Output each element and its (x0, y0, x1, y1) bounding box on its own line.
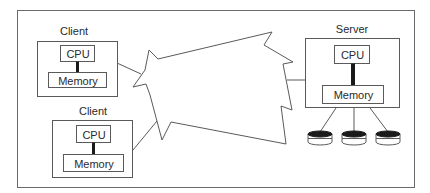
disk-icon (308, 131, 332, 145)
client1-cpu-label: CPU (61, 46, 95, 62)
client1-memory-label: Memory (49, 73, 107, 88)
server-label: Server (333, 23, 371, 35)
disk-icon (376, 131, 400, 145)
server-bus (351, 64, 355, 86)
client2-cpu-label: CPU (77, 126, 111, 143)
client2-bus (92, 143, 95, 155)
server-memory-label: Memory (323, 86, 384, 104)
client2-label: Client (74, 105, 112, 117)
server-cpu-label: CPU (335, 46, 370, 64)
client1-label: Client (55, 25, 93, 37)
disk-icon (342, 131, 366, 145)
client2-memory-label: Memory (64, 155, 124, 172)
client1-bus (76, 62, 79, 73)
